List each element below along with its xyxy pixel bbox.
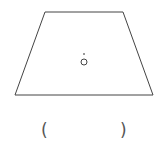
diagram-canvas: ( ) xyxy=(0,0,163,151)
trapezoid-figure xyxy=(0,0,163,151)
open-paren: ( xyxy=(41,120,48,140)
close-paren: ) xyxy=(120,120,127,140)
center-point-circle xyxy=(81,59,87,65)
center-marker-dot xyxy=(83,53,85,55)
